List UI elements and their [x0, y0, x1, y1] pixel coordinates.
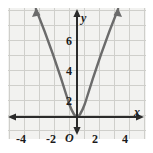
x-axis-arrow-left: [8, 113, 16, 120]
x-tick-label-pos2: 2: [92, 133, 98, 145]
axis-lines: [8, 8, 146, 139]
x-tick-label-pos4: 4: [122, 133, 128, 145]
x-tick-label-neg2: -2: [46, 133, 56, 145]
y-tick-label-2: 2: [66, 95, 72, 107]
origin-label: O: [65, 132, 74, 144]
y-axis-arrow-up: [73, 9, 80, 17]
y-axis-name-label: y: [81, 12, 86, 24]
y-axis-arrow-down: [73, 127, 80, 135]
y-tick-label-4: 4: [66, 65, 72, 77]
x-axis-name-label: x: [134, 106, 140, 118]
y-tick-label-6: 6: [66, 35, 72, 47]
graph-figure: -4 -2 2 4 O 2 4 6 y x: [0, 0, 153, 153]
x-tick-label-neg4: -4: [16, 133, 26, 145]
plot-area: [8, 8, 146, 139]
